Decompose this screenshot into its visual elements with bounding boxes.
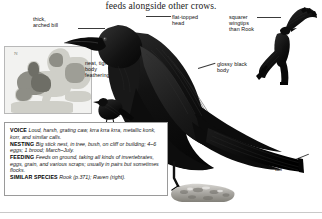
map-range-iberia [16,88,32,101]
map-land-north-africa [11,101,73,113]
info-voice-text: Loud, harsh, grating caw, krra krra krra… [10,127,156,140]
map-land-anatolia [65,91,91,102]
small-perched-crow-illustration [94,92,136,126]
field-guide-page: feeds alongside other crows. N thick, ar… [0,0,322,219]
map-range-east [65,63,85,83]
map-range-scandinavia [49,53,63,67]
perch-rock-illustration [168,183,238,203]
info-nesting: NESTING Big stick nest, in tree, bush, o… [10,141,163,154]
info-nesting-heading: NESTING [10,141,34,147]
info-similar-species: SIMILAR SPECIES Rook (p.371); Raven (rig… [10,174,163,181]
label-thick-arched-bill: thick, arched bill [33,16,77,28]
info-voice-heading: VOICE [10,127,27,133]
info-feeding: FEEDING Feeds on ground, taking all kind… [10,154,163,174]
range-map: N [4,46,92,114]
info-similar-heading: SIMILAR SPECIES [10,174,58,180]
page-bottom-band [0,213,322,219]
species-info-box: VOICE Loud, harsh, grating caw, krra krr… [4,122,168,196]
info-feeding-heading: FEEDING [10,154,34,160]
map-range-central [31,74,51,92]
info-voice: VOICE Loud, harsh, grating caw, krra krr… [10,127,163,140]
flying-crow-illustration [255,8,321,88]
info-similar-text: Rook (p.371); Raven (right). [59,174,125,180]
map-compass-icon: N [14,51,18,56]
